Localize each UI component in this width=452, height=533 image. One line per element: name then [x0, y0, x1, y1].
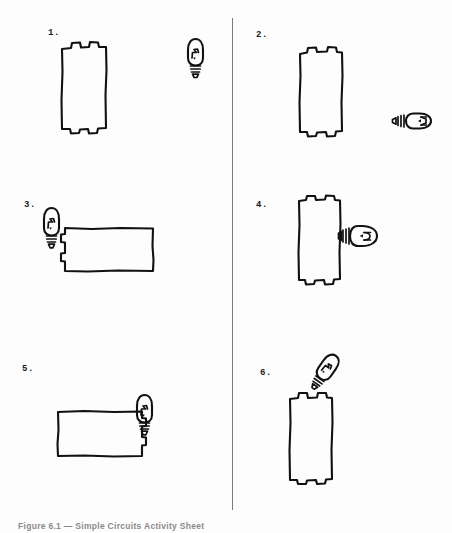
panel-5-number: 5.	[22, 364, 34, 374]
figure-caption: Figure 6.1 — Simple Circuits Activity Sh…	[18, 521, 204, 531]
panel-3-bulb	[38, 205, 68, 253]
worksheet-page: 1. 2.	[0, 0, 452, 533]
panel-1-number: 1.	[48, 28, 60, 38]
panel-3-number: 3.	[24, 200, 36, 210]
panel-4-bulb	[338, 220, 386, 252]
panel-2-bulb	[390, 106, 434, 136]
panel-1: 1.	[0, 0, 226, 180]
panel-6: 6.	[226, 340, 452, 500]
panel-3: 3.	[0, 180, 226, 340]
panel-2: 2.	[226, 0, 452, 180]
panel-1-bulb	[181, 36, 211, 80]
panel-1-battery	[58, 40, 110, 138]
panel-5-bulb	[131, 392, 161, 440]
panel-2-number: 2.	[256, 30, 268, 40]
panel-6-battery	[286, 390, 336, 488]
panel-3-battery	[58, 220, 158, 278]
panel-2-battery	[296, 44, 346, 140]
panel-4: 4.	[226, 180, 452, 340]
panel-6-number: 6.	[260, 368, 272, 378]
panel-5: 5.	[0, 340, 226, 500]
panel-4-number: 4.	[256, 200, 268, 210]
panel-4-battery	[294, 194, 344, 288]
